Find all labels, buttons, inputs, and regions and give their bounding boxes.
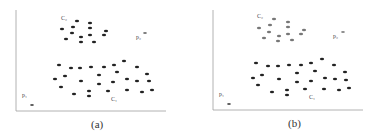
data-point	[64, 38, 68, 41]
data-point	[97, 74, 101, 77]
panel-a-label-c1: C₁	[111, 96, 117, 102]
panel-a-cluster-c1	[53, 60, 154, 98]
clustering-figure	[0, 0, 376, 137]
data-point	[88, 22, 92, 25]
data-point	[343, 71, 347, 74]
panel-b-scatter	[213, 10, 363, 110]
panel-a-outlier-p2	[143, 32, 147, 34]
data-point	[257, 27, 261, 30]
data-point	[344, 79, 348, 82]
data-point	[285, 89, 289, 92]
data-point	[267, 31, 271, 34]
data-point	[256, 84, 260, 87]
data-point	[60, 28, 64, 31]
data-point	[309, 80, 313, 83]
data-point	[150, 89, 154, 92]
data-point	[262, 37, 266, 40]
data-point	[299, 33, 303, 36]
data-point	[277, 78, 281, 81]
panel-b-outlier-p2	[341, 31, 345, 33]
data-point	[286, 26, 290, 29]
data-point	[313, 70, 317, 73]
data-point	[290, 39, 294, 42]
data-point	[295, 72, 299, 75]
data-point	[102, 34, 106, 37]
data-point	[88, 27, 92, 30]
data-point	[268, 24, 272, 27]
data-point	[276, 40, 280, 43]
data-point	[87, 95, 91, 98]
data-point	[88, 34, 92, 37]
data-point	[260, 74, 264, 77]
data-point	[53, 78, 57, 81]
panel-b-outlier-p1	[227, 103, 231, 105]
data-point	[69, 67, 73, 70]
data-point	[347, 87, 351, 90]
data-point	[309, 62, 313, 65]
data-point	[227, 103, 231, 105]
data-point	[320, 58, 324, 61]
data-point	[299, 64, 303, 67]
panel-a-caption: (a)	[91, 119, 103, 130]
data-point	[322, 88, 326, 91]
panel-b-caption: (b)	[288, 118, 301, 129]
data-point	[78, 67, 82, 70]
panel-a-cluster-c2	[60, 20, 108, 44]
panel-a-label-p2: p₂	[136, 34, 141, 40]
data-point	[286, 33, 290, 36]
data-point	[285, 94, 289, 97]
data-point	[276, 65, 280, 68]
data-point	[341, 31, 345, 33]
data-point	[79, 36, 83, 39]
data-point	[135, 66, 139, 69]
panel-a-label-c2: C₂	[61, 15, 67, 21]
data-point	[303, 88, 307, 91]
panel-b-label-c2: C₂	[257, 13, 263, 19]
data-point	[145, 73, 149, 76]
data-point	[302, 29, 306, 32]
data-point	[75, 20, 79, 23]
data-point	[337, 89, 341, 92]
data-point	[104, 30, 108, 33]
data-point	[87, 90, 91, 93]
data-point	[111, 81, 115, 84]
data-point	[143, 32, 147, 34]
data-point	[57, 64, 61, 67]
data-point	[79, 80, 83, 83]
data-point	[254, 62, 258, 65]
data-point	[63, 75, 67, 78]
data-point	[79, 41, 83, 44]
panel-a-label-p1: p₁	[22, 92, 27, 98]
data-point	[106, 90, 110, 93]
data-point	[59, 86, 63, 89]
data-point	[102, 66, 106, 69]
panel-b-cluster-c2	[257, 18, 306, 43]
data-point	[72, 93, 76, 96]
data-point	[266, 65, 270, 68]
data-point	[295, 81, 299, 84]
data-point	[112, 64, 116, 67]
panel-b-cluster-c1	[251, 58, 351, 97]
data-point	[272, 18, 276, 21]
data-point	[89, 66, 93, 69]
data-point	[147, 80, 151, 83]
data-point	[251, 77, 255, 80]
data-point	[70, 32, 74, 35]
panel-a-scatter	[16, 10, 166, 111]
data-point	[135, 80, 139, 83]
data-point	[287, 64, 291, 67]
data-point	[71, 26, 75, 29]
data-point	[30, 104, 34, 106]
data-point	[122, 60, 126, 63]
data-point	[323, 77, 327, 80]
data-point	[332, 64, 336, 67]
data-point	[286, 21, 290, 24]
data-point	[125, 78, 129, 81]
panel-a-outlier-p1	[30, 104, 34, 106]
data-point	[140, 91, 144, 94]
data-point	[270, 91, 274, 94]
data-point	[333, 78, 337, 81]
panel-b-label-p2: p₂	[333, 33, 338, 39]
data-point	[115, 71, 119, 74]
panel-b-label-c1: C₁	[309, 94, 315, 100]
